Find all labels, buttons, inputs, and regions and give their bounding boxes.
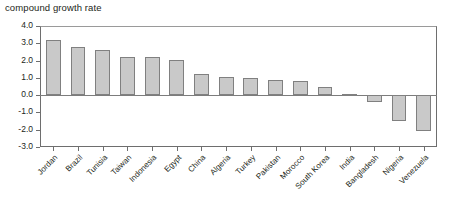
bar xyxy=(367,95,382,102)
x-axis-tick-mark xyxy=(177,147,178,151)
y-axis-tick-label: 2.0 xyxy=(21,55,33,65)
y-axis-tick-label: 0.0 xyxy=(21,89,33,99)
bar xyxy=(268,80,283,95)
bar xyxy=(392,95,407,121)
bar xyxy=(71,47,86,95)
y-axis-tick-label: -1.0 xyxy=(18,106,33,116)
y-axis-tick-mark xyxy=(36,147,40,148)
x-axis-tick-mark xyxy=(152,147,153,151)
x-axis-tick-mark xyxy=(78,147,79,151)
x-axis-tick-mark xyxy=(226,147,227,151)
chart-figure: compound growth rate 4.03.02.01.00.0-1.0… xyxy=(0,0,449,207)
bar xyxy=(95,50,110,95)
x-axis-tick-mark xyxy=(251,147,252,151)
bar xyxy=(318,87,333,96)
bar xyxy=(293,81,308,95)
bar xyxy=(120,57,135,95)
y-axis-tick-label: 4.0 xyxy=(21,20,33,30)
x-axis-tick-mark xyxy=(103,147,104,151)
bar xyxy=(169,60,184,95)
bar xyxy=(342,94,357,96)
x-axis-tick-mark xyxy=(399,147,400,151)
y-axis: 4.03.02.01.00.0-1.0-2.0-3.0 xyxy=(0,26,40,147)
y-axis-tick-label: -2.0 xyxy=(18,124,33,134)
x-axis-tick-mark xyxy=(424,147,425,151)
x-axis: JordanBrazilTunisiaTaiwanIndonesiaEgyptC… xyxy=(41,147,436,207)
bar xyxy=(219,77,234,95)
x-axis-tick-mark xyxy=(127,147,128,151)
x-axis-tick-mark xyxy=(374,147,375,151)
bar xyxy=(194,74,209,95)
x-axis-tick-mark xyxy=(300,147,301,151)
x-axis-tick-mark xyxy=(325,147,326,151)
bar-series xyxy=(41,26,436,147)
x-axis-tick-mark xyxy=(350,147,351,151)
y-axis-tick-label: 1.0 xyxy=(21,72,33,82)
y-axis-tick-label: -3.0 xyxy=(18,141,33,151)
bar xyxy=(46,40,61,95)
bar xyxy=(243,78,258,95)
bar xyxy=(416,95,431,130)
x-axis-tick-mark xyxy=(53,147,54,151)
bar xyxy=(145,57,160,95)
x-axis-tick-mark xyxy=(201,147,202,151)
y-axis-tick-label: 3.0 xyxy=(21,37,33,47)
chart-title: compound growth rate xyxy=(5,2,102,13)
x-axis-tick-mark xyxy=(276,147,277,151)
